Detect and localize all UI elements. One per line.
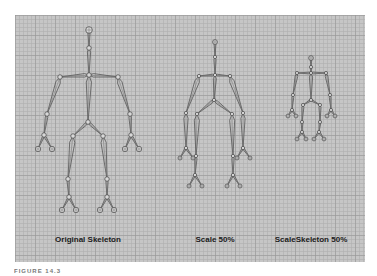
joint-r_wrist	[241, 146, 244, 149]
joint-l_knee	[66, 177, 71, 182]
joint-l_wrist	[290, 108, 293, 111]
joint-l_hip	[301, 103, 304, 106]
label-original-skeleton: Original Skeleton	[55, 235, 121, 244]
joint-l_shoulder	[58, 75, 63, 80]
joint-l_hip	[195, 112, 198, 115]
joint-neck	[309, 65, 312, 68]
joint-r_shoulder	[116, 75, 121, 80]
label-scaleskeleton-50: ScaleSkeleton 50%	[275, 235, 347, 244]
joint-pelvis	[86, 120, 91, 125]
joint-neck	[213, 55, 216, 58]
joint-l_ankle	[300, 130, 303, 133]
joint-l_elbow	[184, 111, 187, 114]
joint-l_wrist	[184, 146, 187, 149]
joint-r_hip	[101, 134, 106, 139]
label-scale-50: Scale 50%	[195, 235, 234, 244]
joint-chest	[213, 73, 216, 76]
joint-r_hip	[318, 103, 321, 106]
joint-l_knee	[194, 154, 197, 157]
joint-l_ankle	[193, 173, 196, 176]
joint-l_ankle	[67, 195, 72, 200]
joint-l_shoulder	[295, 71, 298, 74]
joint-r_ankle	[231, 173, 234, 176]
joint-r_elbow	[128, 112, 133, 117]
joint-r_elbow	[328, 93, 331, 96]
joint-r_shoulder	[228, 74, 231, 77]
joint-l_elbow	[45, 112, 50, 117]
figure-caption: FIGURE 14.3	[14, 268, 61, 276]
joint-l_hip	[71, 134, 76, 139]
joint-l_wrist	[42, 133, 47, 138]
joint-l_elbow	[291, 93, 294, 96]
joint-r_ankle	[105, 195, 110, 200]
joint-l_shoulder	[197, 74, 200, 77]
joint-pelvis	[212, 98, 215, 101]
joint-r_ankle	[317, 130, 320, 133]
joint-r_knee	[318, 120, 321, 123]
scale-50-skeleton	[178, 40, 252, 188]
joint-r_hip	[230, 112, 233, 115]
joint-neck	[87, 46, 92, 51]
joint-l_knee	[300, 120, 303, 123]
scaleskeleton-50-skeleton	[286, 56, 337, 141]
joint-r_wrist	[329, 108, 332, 111]
bone	[101, 136, 107, 179]
joint-r_knee	[105, 177, 110, 182]
joint-chest	[309, 71, 312, 74]
joint-chest	[87, 73, 92, 78]
joint-r_elbow	[241, 111, 244, 114]
joint-r_knee	[231, 154, 234, 157]
original-skeleton	[35, 27, 141, 213]
bone	[68, 136, 75, 179]
joint-r_shoulder	[324, 71, 327, 74]
joint-r_wrist	[129, 133, 134, 138]
joint-pelvis	[309, 98, 312, 101]
